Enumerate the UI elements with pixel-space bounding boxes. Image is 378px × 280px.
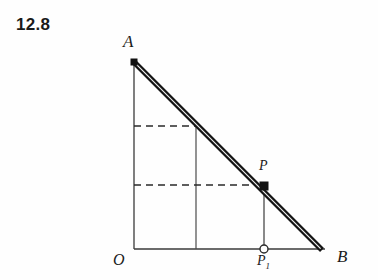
vertex-label-B: B	[337, 248, 347, 265]
point-label-P1: P1	[257, 254, 270, 271]
point-A-marker	[131, 59, 138, 66]
rod-AB	[134, 62, 322, 250]
point-P-marker	[260, 182, 269, 191]
figure-page: 12.8 A B O P P1	[0, 0, 378, 280]
point-label-P: P	[259, 159, 268, 173]
point-label-P1-subscript: 1	[266, 261, 271, 271]
origin-label-O: O	[113, 252, 125, 268]
point-label-P1-base: P	[257, 253, 266, 268]
vertex-label-A: A	[123, 33, 133, 50]
point-P1-marker	[260, 245, 268, 253]
geometry-figure	[0, 0, 378, 280]
